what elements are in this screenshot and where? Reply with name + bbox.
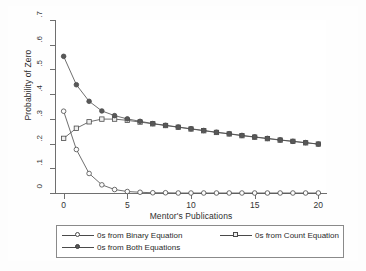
data-point-circle-filled (74, 82, 79, 87)
data-point-circle-open (163, 190, 168, 195)
legend-row: 0s from Both Equations (61, 241, 339, 253)
legend-key-square-open-icon (219, 230, 253, 240)
legend-row: 0s from Binary Equation 0s from Count Eq… (61, 229, 339, 241)
series-circle-filled (61, 54, 320, 146)
data-point-circle-open (125, 189, 130, 194)
y-tick-mark (50, 94, 55, 95)
legend-label-both: 0s from Both Equations (95, 243, 180, 252)
x-tick-label: 5 (114, 200, 140, 210)
graph-region: Probability of Zero 0.1.2.3.4.5.6.7 0510… (8, 6, 358, 261)
y-tick-mark (50, 168, 55, 169)
y-tick-label: .3 (30, 114, 48, 124)
y-tick-label: .5 (30, 64, 48, 74)
x-tick-label: 15 (242, 200, 268, 210)
y-tick-label-text: .2 (34, 135, 44, 153)
data-point-circle-open (291, 191, 296, 196)
y-tick-mark (50, 144, 55, 145)
y-tick-mark (50, 45, 55, 46)
legend-entry-binary[interactable]: 0s from Binary Equation (61, 229, 219, 241)
data-point-circle-open (61, 109, 66, 114)
legend-label-count: 0s from Count Equation (253, 231, 339, 240)
data-point-circle-filled (303, 140, 308, 145)
data-point-circle-open (252, 191, 257, 196)
data-point-circle-open (189, 191, 194, 196)
data-point-circle-filled (278, 138, 283, 143)
y-tick-label: 0 (30, 188, 48, 198)
y-tick-label-text: .3 (34, 110, 44, 128)
x-tick-label: 10 (178, 200, 204, 210)
data-point-circle-open (265, 191, 270, 196)
data-point-square-open (74, 126, 78, 130)
data-point-circle-filled (138, 119, 143, 124)
legend-key-circle-open-icon (61, 230, 95, 240)
chart-screenshot: Probability of Zero 0.1.2.3.4.5.6.7 0510… (0, 0, 366, 271)
data-point-circle-filled (214, 130, 219, 135)
y-tick-mark (50, 20, 55, 21)
legend-entry-both[interactable]: 0s from Both Equations (61, 241, 219, 253)
data-point-circle-open (150, 190, 155, 195)
y-tick-label-text: 0 (34, 184, 44, 202)
y-tick-label: .1 (30, 163, 48, 173)
plot-area (56, 20, 326, 193)
x-axis-title: Mentor's Publications (56, 211, 326, 221)
data-point-circle-open (74, 147, 79, 152)
y-tick-label: .2 (30, 139, 48, 149)
y-tick-label: .7 (30, 15, 48, 25)
data-point-circle-filled (265, 136, 270, 141)
data-point-circle-filled (227, 131, 232, 136)
data-point-circle-filled (291, 139, 296, 144)
y-tick-label-text: .6 (34, 36, 44, 54)
data-point-circle-filled (189, 126, 194, 131)
x-tick-label: 0 (51, 200, 77, 210)
y-tick-mark (50, 69, 55, 70)
data-point-circle-filled (176, 125, 181, 130)
data-point-circle-open (100, 183, 105, 188)
data-point-circle-filled (316, 142, 321, 147)
data-point-circle-open (112, 187, 117, 192)
data-point-square-open (87, 120, 91, 124)
data-point-circle-open (138, 190, 143, 195)
series-circle-open (61, 109, 320, 195)
data-point-circle-filled (61, 54, 66, 59)
y-tick-label-text: .1 (34, 159, 44, 177)
legend: 0s from Binary Equation 0s from Count Eq… (56, 225, 344, 258)
x-tick-mark (127, 194, 128, 199)
data-point-circle-open (176, 191, 181, 196)
data-point-circle-filled (87, 99, 92, 104)
data-point-circle-open (278, 191, 283, 196)
data-point-circle-filled (150, 121, 155, 126)
data-point-circle-open (316, 191, 321, 196)
data-point-circle-filled (252, 135, 257, 140)
y-tick-mark (50, 119, 55, 120)
legend-label-binary: 0s from Binary Equation (95, 231, 182, 240)
plot-svg (56, 20, 326, 193)
data-point-circle-open (227, 191, 232, 196)
data-point-circle-filled (112, 113, 117, 118)
data-point-circle-filled (100, 109, 105, 114)
series-line (64, 111, 319, 193)
data-point-square-open (100, 117, 104, 121)
legend-key-circle-filled-icon (61, 242, 95, 252)
data-point-square-open (61, 136, 65, 140)
y-tick-label: .4 (30, 89, 48, 99)
data-point-circle-filled (201, 128, 206, 133)
y-tick-label: .6 (30, 40, 48, 50)
data-point-circle-filled (125, 117, 130, 122)
data-point-circle-filled (240, 133, 245, 138)
y-tick-label-text: .4 (34, 85, 44, 103)
data-point-circle-open (303, 191, 308, 196)
y-tick-mark (50, 193, 55, 194)
legend-entry-count[interactable]: 0s from Count Equation (219, 229, 339, 241)
data-point-circle-filled (163, 123, 168, 128)
data-point-circle-open (87, 171, 92, 176)
data-point-circle-open (240, 191, 245, 196)
y-tick-label-text: .7 (34, 11, 44, 29)
x-tick-label: 20 (305, 200, 331, 210)
x-tick-mark (64, 194, 65, 199)
data-point-circle-open (214, 191, 219, 196)
y-tick-label-text: .5 (34, 60, 44, 78)
data-point-circle-open (201, 191, 206, 196)
